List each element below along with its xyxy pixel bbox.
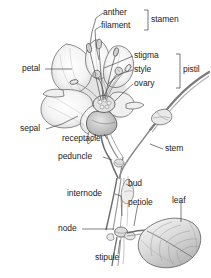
- label-style: style: [134, 65, 151, 74]
- label-petiole: petiole: [128, 198, 153, 207]
- label-peduncle: peduncle: [58, 152, 92, 161]
- flower-anatomy-diagram: anther filament stamen petal stigma styl…: [0, 0, 211, 278]
- label-ovary: ovary: [134, 79, 155, 88]
- label-stipule: stipule: [95, 253, 119, 262]
- label-stamen: stamen: [151, 15, 179, 24]
- label-sepal: sepal: [20, 124, 40, 133]
- label-bud: bud: [128, 179, 142, 188]
- label-stigma: stigma: [134, 51, 159, 60]
- label-receptacle: receptacle: [62, 134, 101, 143]
- label-anther: anther: [103, 8, 127, 17]
- label-filament: filament: [101, 21, 130, 30]
- label-pistil: pistil: [183, 65, 200, 74]
- label-layer: anther filament stamen petal stigma styl…: [0, 0, 211, 278]
- label-node: node: [58, 224, 77, 233]
- label-petal: petal: [22, 64, 40, 73]
- label-internode: internode: [67, 189, 102, 198]
- label-stem: stem: [165, 144, 183, 153]
- label-leaf: leaf: [172, 196, 186, 205]
